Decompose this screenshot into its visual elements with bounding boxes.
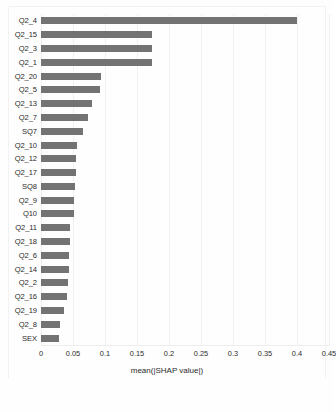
bar-row: Q2_1	[41, 55, 329, 69]
y-axis-label-Q2_6: Q2_6	[19, 251, 37, 260]
y-axis-label-SQ7: SQ7	[22, 127, 37, 136]
bar-row: SQ7	[41, 124, 329, 138]
bar-row: Q2_7	[41, 111, 329, 125]
y-axis-label-Q2_10: Q2_10	[15, 141, 37, 150]
bar-Q2_14	[41, 266, 69, 273]
bar-row: Q2_3	[41, 42, 329, 56]
bar-row: SQ8	[41, 180, 329, 194]
x-tick-label-0.35: 0.35	[258, 349, 272, 358]
bar-Q2_5	[41, 86, 100, 93]
bar-row: Q2_15	[41, 28, 329, 42]
x-axis-title: mean(|SHAP value|)	[0, 366, 334, 375]
y-axis-label-Q10: Q10	[23, 209, 37, 218]
y-axis-label-Q2_20: Q2_20	[15, 72, 37, 81]
bar-row: Q2_5	[41, 83, 329, 97]
y-axis-label-Q2_2: Q2_2	[19, 278, 37, 287]
bar-row: Q2_11	[41, 221, 329, 235]
bar-row: Q2_13	[41, 97, 329, 111]
bar-Q2_3	[41, 45, 152, 52]
bar-Q2_12	[41, 155, 76, 162]
gridline-0.45	[329, 14, 330, 345]
bar-Q2_17	[41, 169, 76, 176]
bar-Q2_19	[41, 307, 64, 314]
bar-Q2_16	[41, 293, 67, 300]
y-axis-label-Q2_5: Q2_5	[19, 85, 37, 94]
bar-SQ7	[41, 128, 83, 135]
plot-area: Q2_4Q2_15Q2_3Q2_1Q2_20Q2_5Q2_13Q2_7SQ7Q2…	[41, 14, 329, 345]
bar-row: Q2_6	[41, 248, 329, 262]
x-tick-label-0.25: 0.25	[194, 349, 208, 358]
bar-Q2_13	[41, 100, 92, 107]
bar-row: Q2_9	[41, 193, 329, 207]
y-axis-label-Q2_9: Q2_9	[19, 196, 37, 205]
bar-row: Q2_17	[41, 166, 329, 180]
bar-Q2_7	[41, 114, 88, 121]
y-axis-label-Q2_3: Q2_3	[19, 44, 37, 53]
x-tick-label-0.2: 0.2	[164, 349, 174, 358]
y-axis-label-Q2_8: Q2_8	[19, 320, 37, 329]
bar-Q2_2	[41, 279, 68, 286]
y-axis-label-SQ8: SQ8	[22, 182, 37, 191]
y-axis-label-Q2_12: Q2_12	[15, 154, 37, 163]
bar-Q2_20	[41, 73, 101, 80]
bar-row: Q2_10	[41, 138, 329, 152]
x-tick-label-0.4: 0.4	[292, 349, 302, 358]
x-tick-label-0: 0	[39, 349, 43, 358]
y-axis-label-Q2_17: Q2_17	[15, 168, 37, 177]
y-axis-label-SEX: SEX	[22, 334, 37, 343]
bar-row: SEX	[41, 331, 329, 345]
y-axis-label-Q2_4: Q2_4	[19, 16, 37, 25]
bar-Q2_18	[41, 238, 70, 245]
bar-Q2_11	[41, 224, 70, 231]
y-axis-label-Q2_1: Q2_1	[19, 58, 37, 67]
bar-Q2_4	[41, 17, 297, 24]
bar-Q2_10	[41, 142, 77, 149]
x-tick-label-0.3: 0.3	[228, 349, 238, 358]
bar-row: Q2_2	[41, 276, 329, 290]
y-axis-label-Q2_7: Q2_7	[19, 113, 37, 122]
x-tick-label-0.15: 0.15	[130, 349, 144, 358]
bar-row: Q2_19	[41, 304, 329, 318]
bar-row: Q2_14	[41, 262, 329, 276]
y-axis-label-Q2_19: Q2_19	[15, 306, 37, 315]
y-axis-label-Q2_14: Q2_14	[15, 265, 37, 274]
bar-Q2_15	[41, 31, 152, 38]
y-axis-label-Q2_13: Q2_13	[15, 99, 37, 108]
y-axis-label-Q2_18: Q2_18	[15, 237, 37, 246]
bar-SQ8	[41, 183, 75, 190]
bar-row: Q2_8	[41, 317, 329, 331]
bar-Q2_1	[41, 59, 152, 66]
y-axis-label-Q2_15: Q2_15	[15, 30, 37, 39]
bar-row: Q2_20	[41, 69, 329, 83]
y-axis-label-Q2_11: Q2_11	[15, 223, 37, 232]
bar-Q10	[41, 210, 74, 217]
x-tick-label-0.45: 0.45	[322, 349, 336, 358]
bar-row: Q2_12	[41, 152, 329, 166]
bar-row: Q2_4	[41, 14, 329, 28]
bar-Q2_8	[41, 321, 60, 328]
x-axis-line	[41, 345, 329, 346]
bar-Q2_6	[41, 252, 69, 259]
bar-row: Q10	[41, 207, 329, 221]
bar-SEX	[41, 335, 59, 342]
bar-row: Q2_16	[41, 290, 329, 304]
bar-row: Q2_18	[41, 235, 329, 249]
x-tick-label-0.1: 0.1	[100, 349, 110, 358]
y-axis-label-Q2_16: Q2_16	[15, 292, 37, 301]
x-tick-label-0.05: 0.05	[66, 349, 80, 358]
bar-Q2_9	[41, 197, 74, 204]
